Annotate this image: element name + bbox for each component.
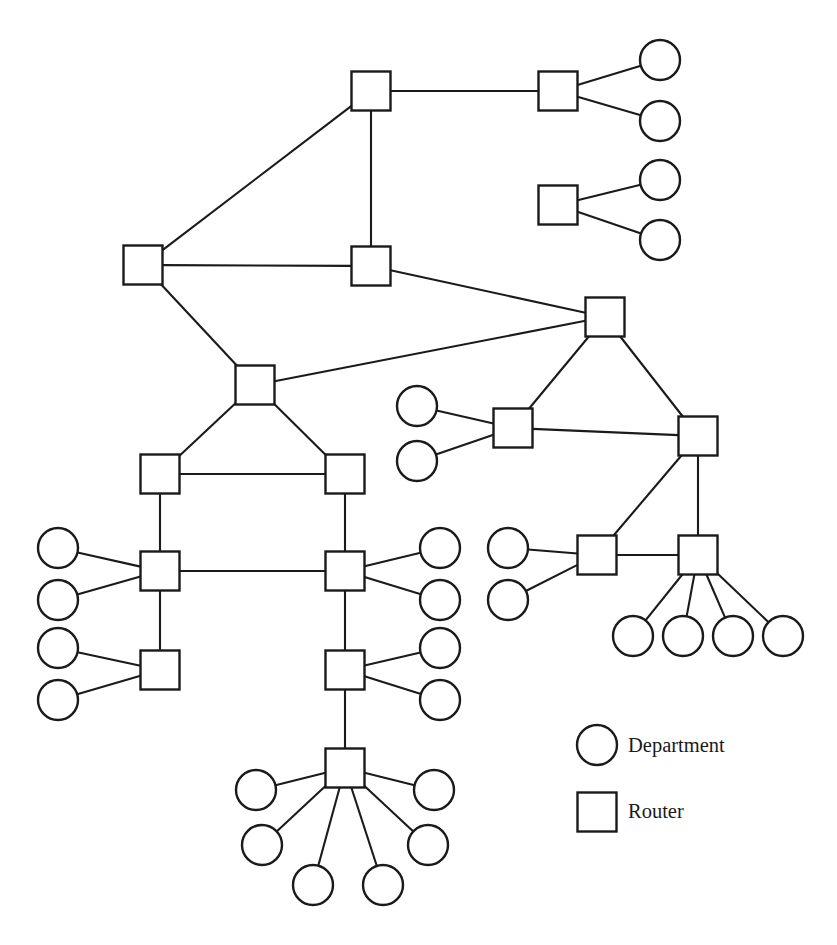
legend-router-icon <box>578 793 617 832</box>
network-link <box>275 773 325 785</box>
network-graph-canvas: DepartmentRouter <box>0 0 837 945</box>
router-node[interactable] <box>539 72 578 111</box>
department-node[interactable] <box>420 580 460 620</box>
department-node[interactable] <box>397 441 437 481</box>
network-link <box>687 575 695 617</box>
department-node[interactable] <box>363 865 403 905</box>
department-node[interactable] <box>640 101 680 141</box>
network-link <box>436 435 494 455</box>
department-node[interactable] <box>420 628 460 668</box>
network-link <box>706 575 725 618</box>
department-node[interactable] <box>640 160 680 200</box>
network-link <box>351 788 376 866</box>
department-node[interactable] <box>420 528 460 568</box>
router-node[interactable] <box>679 536 718 575</box>
department-node[interactable] <box>414 770 454 810</box>
network-link <box>180 403 236 455</box>
router-node[interactable] <box>326 651 365 690</box>
network-diagram: DepartmentRouter <box>0 0 837 945</box>
network-link <box>78 552 141 566</box>
network-link <box>718 574 769 623</box>
department-node[interactable] <box>640 40 680 80</box>
router-node[interactable] <box>141 651 180 690</box>
router-node[interactable] <box>141 552 180 591</box>
router-node[interactable] <box>586 298 625 337</box>
router-node[interactable] <box>141 455 180 494</box>
department-node[interactable] <box>763 616 803 656</box>
network-link <box>163 265 352 266</box>
network-link <box>365 653 421 666</box>
router-node[interactable] <box>494 409 533 448</box>
router-node[interactable] <box>679 417 718 456</box>
router-node[interactable] <box>539 186 578 225</box>
department-node[interactable] <box>38 528 78 568</box>
network-link <box>578 97 641 116</box>
department-node[interactable] <box>38 580 78 620</box>
network-link <box>528 550 578 554</box>
network-link <box>365 786 414 831</box>
router-node[interactable] <box>236 366 275 405</box>
network-link <box>620 337 683 417</box>
router-node[interactable] <box>326 455 365 494</box>
department-node[interactable] <box>713 616 753 656</box>
router-node[interactable] <box>352 247 391 286</box>
router-node[interactable] <box>326 749 365 788</box>
routers-layer <box>124 72 718 788</box>
department-node[interactable] <box>420 680 460 720</box>
legend-department-icon <box>577 725 617 765</box>
department-node[interactable] <box>408 825 448 865</box>
network-link <box>163 106 352 250</box>
department-node[interactable] <box>397 386 437 426</box>
router-node[interactable] <box>578 536 617 575</box>
department-node[interactable] <box>663 616 703 656</box>
department-node[interactable] <box>613 616 653 656</box>
department-node[interactable] <box>488 528 528 568</box>
network-link <box>533 429 679 435</box>
router-node[interactable] <box>326 552 365 591</box>
network-link <box>646 575 683 621</box>
network-link <box>526 565 578 591</box>
legend-department-label: Department <box>628 734 725 757</box>
network-link <box>436 410 493 423</box>
network-link <box>578 212 642 234</box>
router-node[interactable] <box>124 246 163 285</box>
network-link <box>318 788 339 866</box>
network-link <box>578 185 641 200</box>
department-node[interactable] <box>38 680 78 720</box>
network-link <box>365 773 415 785</box>
department-node[interactable] <box>640 220 680 260</box>
department-node[interactable] <box>293 865 333 905</box>
network-link <box>78 652 141 666</box>
network-link <box>391 270 586 313</box>
network-link <box>77 676 140 695</box>
router-node[interactable] <box>352 72 391 111</box>
department-node[interactable] <box>242 825 282 865</box>
network-link <box>161 285 237 366</box>
department-node[interactable] <box>38 628 78 668</box>
network-link <box>77 577 140 595</box>
department-node[interactable] <box>236 770 276 810</box>
network-link <box>365 553 421 567</box>
department-node[interactable] <box>488 580 528 620</box>
network-link <box>277 786 326 831</box>
network-link <box>614 456 682 536</box>
network-link <box>275 404 326 454</box>
network-link <box>578 66 641 85</box>
network-link <box>275 321 586 381</box>
network-link <box>529 337 589 409</box>
legend: DepartmentRouter <box>577 725 725 832</box>
network-link <box>365 676 421 694</box>
network-link <box>365 577 421 594</box>
legend-router-label: Router <box>628 800 684 822</box>
